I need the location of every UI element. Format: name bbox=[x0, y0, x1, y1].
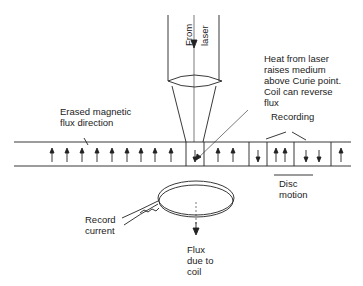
heat-leader bbox=[196, 110, 248, 160]
recording-leader-left bbox=[266, 132, 286, 139]
lens-icon bbox=[168, 75, 222, 87]
domain-dividers bbox=[186, 142, 331, 166]
record-current-label: Record current bbox=[85, 214, 116, 236]
laser-label: laser bbox=[199, 25, 210, 46]
coil-ring-outer bbox=[158, 181, 234, 215]
erased-leader bbox=[84, 138, 88, 145]
cone-left-line bbox=[172, 86, 186, 142]
erased-up-arrows bbox=[50, 148, 173, 162]
cone-right-line bbox=[203, 86, 216, 142]
recording-label: Recording bbox=[271, 111, 314, 122]
from-label: From bbox=[183, 24, 194, 46]
flux-coil-label: Flux due to coil bbox=[187, 244, 213, 277]
magneto-optical-diagram bbox=[0, 0, 363, 286]
flux-arrow-icon bbox=[193, 228, 199, 235]
coil-ring-inner bbox=[159, 185, 233, 217]
disc-motion-label: Disc motion bbox=[279, 178, 308, 200]
erased-label: Erased magnetic flux direction bbox=[60, 106, 131, 128]
heat-note: Heat from laser raises medium above Curi… bbox=[264, 53, 341, 108]
recording-leader-right bbox=[292, 132, 306, 140]
